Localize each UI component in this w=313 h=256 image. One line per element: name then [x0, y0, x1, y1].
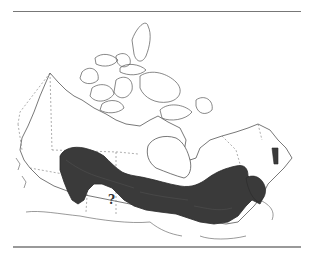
labrador-range-patch	[272, 148, 278, 164]
west-coast-islands	[16, 158, 26, 188]
canada-range-map	[0, 0, 313, 256]
hudson-bay	[147, 136, 190, 178]
arctic-islands	[80, 23, 212, 120]
uncertain-range-marker: ?	[108, 193, 115, 207]
bottom-rule	[13, 246, 301, 248]
